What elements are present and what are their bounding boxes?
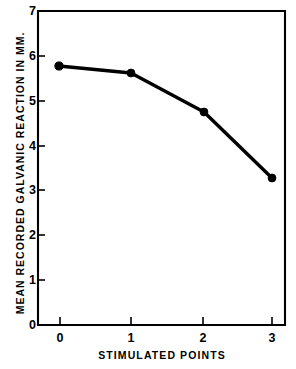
x-axis-label: STIMULATED POINTS bbox=[38, 349, 286, 361]
x-tick-label-1: 1 bbox=[121, 332, 141, 344]
x-tick-label-2: 2 bbox=[193, 332, 213, 344]
chart-figure: 7 6 5 4 3 2 1 0 0 1 2 3 STIMULATED POINT… bbox=[0, 0, 296, 369]
y-axis-label-container: MEAN RECORDED GALVANIC REACTION IN MM. bbox=[14, 13, 30, 333]
y-axis-label: MEAN RECORDED GALVANIC REACTION IN MM. bbox=[14, 13, 26, 333]
x-tick-label-0: 0 bbox=[50, 332, 70, 344]
x-axis-tick-labels: 0 1 2 3 bbox=[0, 0, 296, 369]
x-tick-label-3: 3 bbox=[262, 332, 282, 344]
